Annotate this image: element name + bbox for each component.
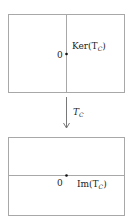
- origin-point: [65, 174, 68, 177]
- origin-point: [65, 53, 68, 56]
- origin-label: 0: [57, 178, 63, 188]
- image-label: Im(TC): [77, 179, 107, 190]
- kernel-label: Ker(TC): [72, 41, 106, 52]
- codomain-box: 0 Im(TC): [9, 138, 125, 216]
- linear-map-diagram: 0 Ker(TC) TC 0 Im(TC): [0, 0, 135, 224]
- origin-label: 0: [57, 50, 63, 60]
- map-label: TC: [73, 107, 84, 118]
- map-arrow: TC: [64, 97, 85, 128]
- domain-box: 0 Ker(TC): [9, 15, 125, 93]
